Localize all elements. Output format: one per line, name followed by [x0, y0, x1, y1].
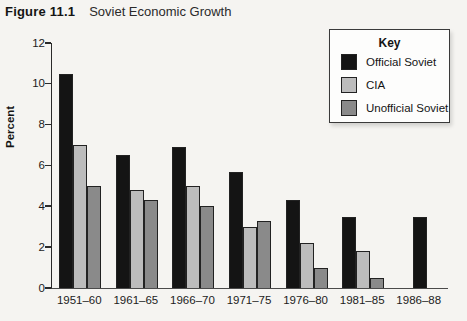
x-axis-labels: 1951–601961–651966–701971–751976–801981–… — [51, 294, 447, 306]
y-tick-label: 4 — [15, 199, 45, 213]
y-tick-mark — [45, 246, 51, 248]
legend-title: Key — [330, 36, 449, 50]
bar-group-1966-70 — [165, 43, 222, 288]
legend-label-official-soviet: Official Soviet — [366, 56, 436, 68]
bar-cia — [186, 186, 200, 288]
bar-official-soviet — [413, 217, 427, 288]
x-label-1981-85: 1981–85 — [334, 294, 391, 306]
y-tick-label: 12 — [15, 36, 45, 50]
legend-item-unofficial-soviet: Unofficial Soviet — [341, 100, 449, 116]
bar-official-soviet — [59, 74, 73, 288]
figure-11-1-soviet-economic-growth: Figure 11.1Soviet Economic Growth Percen… — [0, 0, 467, 321]
x-label-1961-65: 1961–65 — [108, 294, 165, 306]
y-tick-mark — [45, 287, 51, 289]
bar-cia — [73, 145, 87, 288]
y-tick-label: 10 — [15, 76, 45, 90]
bar-cia — [300, 243, 314, 288]
figure-number: Figure 11.1 — [5, 4, 75, 19]
legend-label-cia: CIA — [366, 79, 385, 91]
bar-unofficial-soviet — [370, 278, 384, 288]
bar-official-soviet — [172, 147, 186, 288]
y-tick-label: 2 — [15, 240, 45, 254]
bar-group-1971-75 — [222, 43, 279, 288]
y-tick-label: 8 — [15, 117, 45, 131]
x-label-1986-88: 1986–88 — [390, 294, 447, 306]
x-label-1976-80: 1976–80 — [277, 294, 334, 306]
bar-official-soviet — [229, 172, 243, 288]
bar-official-soviet — [286, 200, 300, 288]
legend-item-official-soviet: Official Soviet — [341, 54, 449, 70]
x-label-1971-75: 1971–75 — [221, 294, 278, 306]
y-tick-label: 6 — [15, 158, 45, 172]
legend-item-cia: CIA — [341, 77, 449, 93]
y-tick-mark — [45, 205, 51, 207]
y-tick-mark — [45, 165, 51, 167]
bar-unofficial-soviet — [314, 268, 328, 288]
bar-unofficial-soviet — [87, 186, 101, 288]
y-tick-label: 0 — [15, 281, 45, 295]
legend-label-unofficial-soviet: Unofficial Soviet — [366, 102, 448, 114]
bar-cia — [130, 190, 144, 288]
bar-unofficial-soviet — [257, 221, 271, 288]
bar-group-1961-65 — [109, 43, 166, 288]
figure-title: Soviet Economic Growth — [89, 4, 231, 19]
bar-cia — [243, 227, 257, 288]
x-label-1966-70: 1966–70 — [164, 294, 221, 306]
bar-group-1951-60 — [52, 43, 109, 288]
y-tick-mark — [45, 124, 51, 126]
bar-cia — [356, 251, 370, 288]
y-tick-mark — [45, 42, 51, 44]
legend-swatch-official-soviet — [341, 54, 357, 70]
legend-swatch-cia — [341, 77, 357, 93]
x-label-1951-60: 1951–60 — [51, 294, 108, 306]
bar-official-soviet — [342, 217, 356, 288]
bar-unofficial-soviet — [200, 206, 214, 288]
bar-official-soviet — [116, 155, 130, 288]
legend-box: Key Official SovietCIAUnofficial Soviet — [329, 29, 450, 123]
figure-caption: Figure 11.1Soviet Economic Growth — [5, 4, 231, 19]
bar-unofficial-soviet — [144, 200, 158, 288]
y-tick-mark — [45, 83, 51, 85]
legend-items: Official SovietCIAUnofficial Soviet — [330, 54, 449, 116]
legend-swatch-unofficial-soviet — [341, 100, 357, 116]
bar-group-1976-80 — [278, 43, 335, 288]
